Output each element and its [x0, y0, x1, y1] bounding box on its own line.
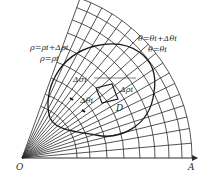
label-delta-sigma: Δσi	[73, 76, 87, 84]
polar-ray-lines	[22, 0, 191, 158]
label-theta-inner: θ=θi	[148, 46, 167, 54]
label-rho-inner: ρ=ρi	[40, 55, 59, 63]
label-delta-theta: Δθi	[80, 97, 93, 105]
label-axis-a: A	[188, 163, 195, 172]
polar-arc	[80, 0, 192, 158]
label-theta-outer: θ=θi+Δθi	[138, 35, 177, 43]
label-region-d: D	[116, 104, 123, 113]
label-origin-o: O	[16, 163, 23, 172]
label-delta-rho: Δρi	[120, 86, 133, 94]
polar-grid-figure	[0, 0, 210, 179]
label-rho-outer: ρ=ρi+Δρi	[30, 44, 68, 52]
